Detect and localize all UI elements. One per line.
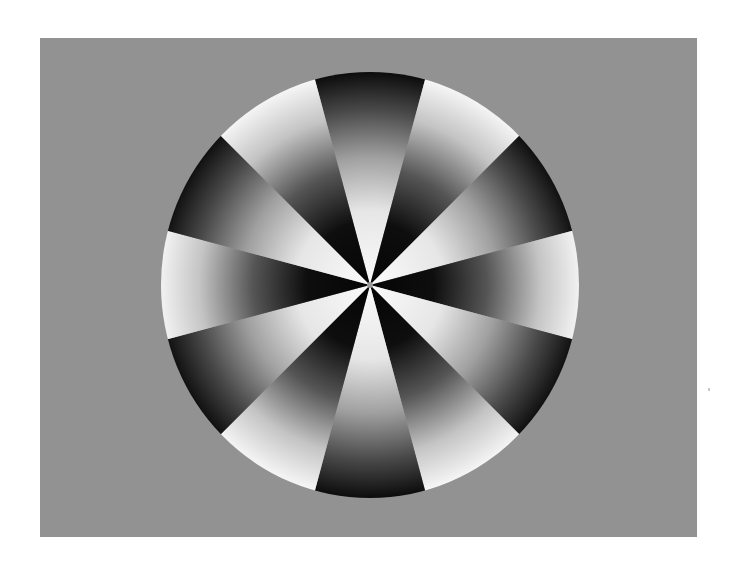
center-point bbox=[367, 282, 373, 288]
scan-speck bbox=[708, 388, 710, 391]
radial-wedge-figure bbox=[0, 0, 735, 564]
